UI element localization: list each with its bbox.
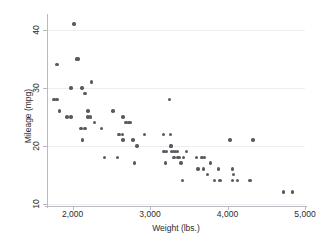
data-point: [195, 156, 198, 159]
data-point: [231, 179, 234, 182]
data-point: [55, 98, 58, 101]
gridline-y-40: [47, 30, 305, 31]
data-point: [251, 138, 254, 141]
x-tick-label-3000: 3,000: [130, 209, 170, 219]
data-point: [72, 22, 75, 25]
scatter-plot-figure: 10203040 2,0003,0004,0005,000 Mileage (m…: [0, 0, 318, 251]
x-tick-label-5000: 5,000: [285, 209, 318, 219]
data-point: [129, 121, 132, 124]
data-point: [165, 150, 168, 153]
data-point: [213, 179, 216, 182]
data-point: [100, 127, 103, 130]
data-point: [179, 161, 182, 164]
data-point: [203, 156, 206, 159]
x-tick-label-2000: 2,000: [53, 209, 93, 219]
data-point: [135, 144, 138, 147]
data-point: [121, 138, 124, 141]
data-point: [55, 63, 58, 66]
data-point: [69, 86, 72, 89]
data-point: [131, 138, 134, 141]
data-point: [206, 173, 209, 176]
data-point: [79, 127, 82, 130]
data-point: [168, 98, 171, 101]
gridline-y-30: [47, 88, 305, 89]
y-axis-title: Mileage (mpg): [23, 56, 33, 176]
data-point: [133, 161, 136, 164]
data-point: [169, 133, 172, 136]
data-point: [58, 109, 61, 112]
data-point: [121, 133, 124, 136]
data-point: [209, 161, 212, 164]
data-point: [76, 57, 79, 60]
data-point: [178, 156, 181, 159]
data-point: [232, 173, 235, 176]
data-point: [196, 167, 199, 170]
data-point: [217, 167, 220, 170]
data-point: [176, 150, 179, 153]
data-point: [236, 179, 239, 182]
x-axis-title: Weight (lbs.): [47, 223, 305, 233]
data-point: [181, 179, 184, 182]
data-point: [218, 179, 221, 182]
data-point: [164, 161, 167, 164]
y-tick-10: [43, 204, 47, 205]
data-point: [162, 133, 165, 136]
data-point: [83, 127, 86, 130]
data-point: [86, 109, 89, 112]
data-point: [170, 144, 173, 147]
y-tick-30: [43, 88, 47, 89]
data-point: [121, 115, 124, 118]
x-tick-label-4000: 4,000: [208, 209, 248, 219]
data-point: [231, 167, 234, 170]
data-point: [182, 156, 185, 159]
plot-area: [47, 16, 305, 206]
data-point: [185, 150, 188, 153]
y-tick-label-10: 10: [31, 196, 41, 212]
gridline-y-10: [47, 204, 305, 205]
x-axis-line: [45, 206, 307, 207]
data-point: [103, 156, 106, 159]
y-tick-label-40: 40: [31, 22, 41, 38]
data-point: [90, 80, 93, 83]
data-point: [202, 167, 205, 170]
data-point: [248, 179, 251, 182]
data-point: [291, 190, 294, 193]
data-point: [83, 92, 86, 95]
data-point: [116, 156, 119, 159]
data-point: [89, 115, 92, 118]
y-tick-20: [43, 146, 47, 147]
data-point: [282, 190, 285, 193]
data-point: [65, 115, 68, 118]
data-point: [93, 121, 96, 124]
data-point: [111, 109, 114, 112]
data-point: [69, 115, 72, 118]
data-point: [81, 138, 84, 141]
y-tick-40: [43, 30, 47, 31]
gridline-y-20: [47, 146, 305, 147]
data-point: [143, 133, 146, 136]
data-point: [80, 86, 83, 89]
y-axis-line: [47, 14, 48, 208]
data-point: [228, 138, 231, 141]
